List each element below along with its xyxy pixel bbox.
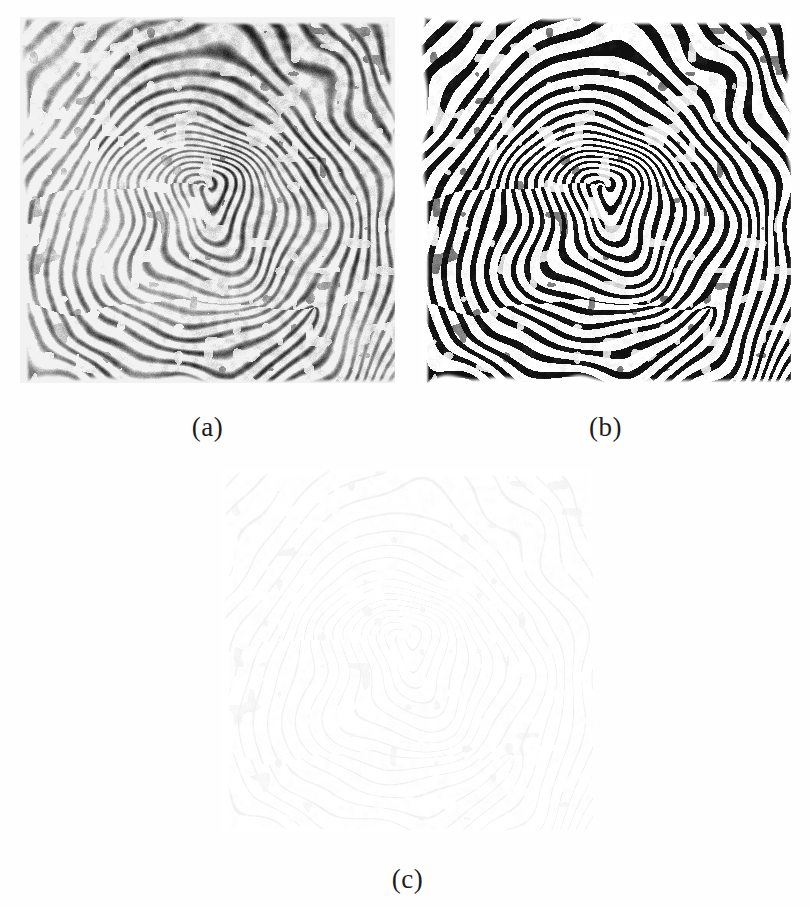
panel-caption-a: (a) — [20, 414, 395, 441]
fingerprint-panel-c — [222, 470, 593, 832]
panel-caption-c: (c) — [222, 866, 593, 893]
fingerprint-canvas-b — [420, 17, 791, 383]
figure-sheet: (a) (b) (c) — [0, 0, 810, 907]
panel-caption-b: (b) — [420, 414, 791, 441]
fingerprint-canvas-a — [20, 17, 395, 383]
fingerprint-canvas-c — [222, 470, 593, 832]
fingerprint-panel-a — [20, 17, 395, 383]
fingerprint-panel-b — [420, 17, 791, 383]
